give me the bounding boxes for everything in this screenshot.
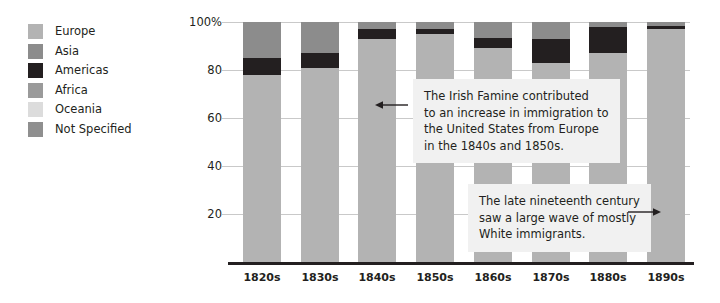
bar-segment-asia[interactable] (647, 22, 685, 26)
legend-item-label: Oceania (55, 104, 102, 116)
stacked-bar-chart: EuropeAsiaAmericasAfricaOceaniaNot Speci… (0, 0, 720, 303)
legend-item-americas[interactable]: Americas (28, 61, 178, 81)
legend-swatch-icon (28, 24, 43, 39)
bar-segment-asia[interactable] (243, 22, 281, 58)
x-axis-tick-label-1870s: 1870s (521, 271, 581, 284)
x-axis-line (228, 262, 694, 265)
annotation-line: in the 1840s and 1850s. (424, 138, 609, 155)
y-axis-tick-label: 20 (207, 207, 222, 221)
legend-swatch-icon (28, 44, 43, 59)
legend-swatch-icon (28, 83, 43, 98)
bar-segment-americas[interactable] (358, 29, 396, 39)
bar-segment-americas[interactable] (301, 53, 339, 67)
bar-segment-asia[interactable] (532, 22, 570, 39)
y-axis-tick-label: 100% (189, 15, 222, 29)
bar-segment-europe[interactable] (301, 68, 339, 262)
annotation-arrow-right-icon (627, 206, 661, 218)
x-axis-tick-label-1820s: 1820s (232, 271, 292, 284)
annotation-line: saw a large wave of mostly (479, 210, 640, 227)
legend-item-not-specified[interactable]: Not Specified (28, 120, 178, 140)
annotation-line: White immigrants. (479, 226, 640, 243)
y-axis-labels: 100%80604020 (178, 22, 222, 262)
bar-1820s[interactable] (243, 22, 281, 262)
legend-swatch-icon (28, 63, 43, 78)
bar-segment-americas[interactable] (589, 27, 627, 53)
y-axis-tick-label: 40 (207, 159, 222, 173)
legend-item-oceania[interactable]: Oceania (28, 100, 178, 120)
legend-item-label: Americas (55, 65, 108, 77)
y-axis-tick (222, 214, 228, 215)
x-axis-tick-label-1850s: 1850s (405, 271, 465, 284)
annotation-late-nineteenth-century: The late nineteenth century saw a large … (468, 184, 651, 252)
annotation-line: the United States from Europe (424, 121, 609, 138)
legend-item-label: Europe (55, 26, 95, 38)
y-axis-tick (222, 22, 228, 23)
x-axis-tick-label-1880s: 1880s (578, 271, 638, 284)
bar-segment-europe[interactable] (243, 75, 281, 262)
legend-item-asia[interactable]: Asia (28, 42, 178, 62)
y-axis-tick-label: 60 (207, 111, 222, 125)
bar-segment-americas[interactable] (647, 26, 685, 30)
x-axis-tick-label-1860s: 1860s (463, 271, 523, 284)
annotation-irish-famine: The Irish Famine contributed to an incre… (413, 79, 620, 163)
bar-segment-asia[interactable] (301, 22, 339, 53)
x-axis-tick-label-1830s: 1830s (290, 271, 350, 284)
bar-segment-americas[interactable] (416, 29, 454, 34)
annotation-line: The Irish Famine contributed (424, 88, 609, 105)
bar-1890s[interactable] (647, 22, 685, 262)
bar-segment-asia[interactable] (474, 22, 512, 38)
legend-item-label: Asia (55, 46, 79, 58)
bar-segment-americas[interactable] (243, 58, 281, 75)
legend-item-africa[interactable]: Africa (28, 81, 178, 101)
legend-swatch-icon (28, 122, 43, 137)
legend-item-label: Africa (55, 85, 88, 97)
annotation-line: The late nineteenth century (479, 193, 640, 210)
annotation-line: to an increase in immigration to (424, 105, 609, 122)
x-axis-tick-label-1840s: 1840s (347, 271, 407, 284)
y-axis-tick (222, 118, 228, 119)
bar-1840s[interactable] (358, 22, 396, 262)
y-axis-tick (222, 166, 228, 167)
annotation-arrow-left-icon (375, 99, 409, 111)
bar-segment-americas[interactable] (532, 39, 570, 63)
bar-segment-europe[interactable] (358, 39, 396, 262)
bar-1830s[interactable] (301, 22, 339, 262)
legend-swatch-icon (28, 102, 43, 117)
bar-segment-americas[interactable] (474, 38, 512, 49)
legend-item-label: Not Specified (55, 124, 132, 136)
bar-segment-europe[interactable] (647, 29, 685, 262)
x-axis-tick-label-1890s: 1890s (636, 271, 696, 284)
bar-segment-asia[interactable] (589, 22, 627, 27)
y-axis-tick-label: 80 (207, 63, 222, 77)
bar-segment-asia[interactable] (416, 22, 454, 29)
legend-item-europe[interactable]: Europe (28, 22, 178, 42)
chart-legend: EuropeAsiaAmericasAfricaOceaniaNot Speci… (28, 22, 178, 139)
y-axis-tick (222, 70, 228, 71)
bar-segment-asia[interactable] (358, 22, 396, 29)
